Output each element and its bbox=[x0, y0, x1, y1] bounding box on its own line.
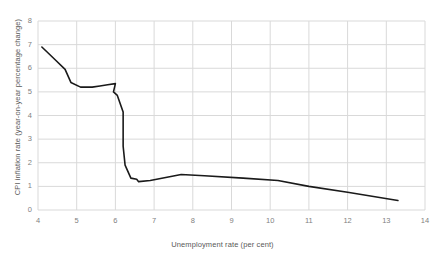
x-tick-label: 12 bbox=[340, 216, 356, 226]
x-tick-label: 10 bbox=[262, 216, 278, 226]
x-tick-label: 4 bbox=[30, 216, 46, 226]
x-tick-label: 14 bbox=[417, 216, 433, 226]
x-tick-label: 11 bbox=[301, 216, 317, 226]
chart-container: 012345678 4567891011121314 CPI inflation… bbox=[0, 0, 445, 256]
x-tick-label: 6 bbox=[107, 216, 123, 226]
data-series-line bbox=[42, 47, 398, 201]
x-axis-title-wrap: Unemployment rate (per cent) bbox=[0, 233, 445, 251]
y-axis-title: CPI inflation rate (year-on-year percent… bbox=[12, 2, 24, 212]
x-axis-title: Unemployment rate (per cent) bbox=[171, 240, 273, 249]
x-tick-label: 7 bbox=[146, 216, 162, 226]
x-tick-label: 8 bbox=[185, 216, 201, 226]
x-tick-label: 9 bbox=[224, 216, 240, 226]
x-tick-label: 5 bbox=[69, 216, 85, 226]
series-path bbox=[42, 47, 398, 201]
x-tick-label: 13 bbox=[378, 216, 394, 226]
